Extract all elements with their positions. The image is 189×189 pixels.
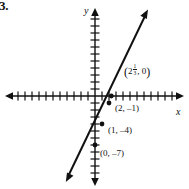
intercept-whole-number: 2	[128, 66, 133, 76]
paren-close-intercept: )	[146, 65, 150, 79]
coordinate-plane-graph	[0, 0, 189, 189]
point-dot-1	[100, 122, 105, 127]
intercept-fraction: 13	[133, 64, 137, 77]
point-label-2: (2, –1)	[115, 103, 139, 113]
y-axis-top-arrowhead	[91, 8, 99, 16]
point-label-0: (0, –7)	[100, 148, 124, 158]
intercept-fraction-numerator: 1	[133, 64, 137, 70]
point-label-x-intercept: (213, 0)	[124, 64, 150, 77]
x-axis-left-arrowhead	[5, 92, 13, 100]
intercept-fraction-denominator: 3	[133, 71, 137, 77]
point-dot-2	[107, 101, 112, 106]
x-axis-right-arrowhead	[176, 92, 184, 100]
y-axis-bottom-arrowhead	[91, 178, 99, 186]
paren-open-intercept: (	[124, 65, 128, 79]
line-lower-arrowhead	[66, 173, 74, 182]
y-axis-label: y	[84, 6, 88, 16]
y-axis	[91, 8, 100, 186]
line-upper-arrowhead	[140, 10, 148, 19]
point-label-1: (1, –4)	[108, 125, 132, 135]
figure-container: 3.	[0, 0, 189, 189]
point-dot-x-intercept	[109, 94, 114, 99]
point-dot-0	[93, 143, 98, 148]
x-axis-label: x	[176, 107, 180, 117]
